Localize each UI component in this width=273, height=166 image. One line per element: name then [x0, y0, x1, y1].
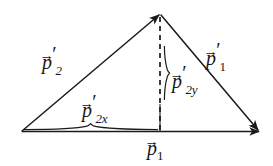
- label-p1-base-letter: p: [147, 137, 157, 159]
- label-p2-prime-y-base: p: [172, 70, 182, 92]
- brace-p2y: [164, 46, 169, 100]
- label-p1-prime-symbol: →p: [206, 48, 216, 68]
- vector-diagram-figure: →p′2 →p′1 →p′2y →p′2x →p1: [0, 0, 273, 166]
- vector-diagram-canvas: [0, 0, 273, 166]
- label-p1-base-subscript: 1: [157, 148, 163, 163]
- label-p2-prime-base: p: [42, 51, 52, 73]
- label-p1-base-symbol: →p: [147, 138, 157, 158]
- label-p2-prime: →p′2: [42, 44, 62, 77]
- label-p2-prime-x-base: p: [82, 99, 92, 121]
- label-p2-prime-x: →p′2x: [82, 92, 107, 125]
- label-p2-prime-y-subscript: 2y: [185, 82, 197, 97]
- label-p2-prime-symbol: →p: [42, 52, 52, 72]
- label-p1-prime-subscript: 1: [219, 59, 225, 74]
- label-p1-prime: →p′1: [206, 40, 226, 73]
- label-p2-prime-y-symbol: →p: [172, 71, 182, 91]
- label-p1-base: →p1: [147, 138, 163, 162]
- label-p2-prime-y: →p′2y: [172, 63, 197, 96]
- label-p2-prime-x-subscript: 2x: [95, 111, 107, 126]
- label-p2-prime-subscript: 2: [55, 63, 61, 78]
- label-p2-prime-x-symbol: →p: [82, 100, 92, 120]
- label-p1-prime-base: p: [206, 47, 216, 69]
